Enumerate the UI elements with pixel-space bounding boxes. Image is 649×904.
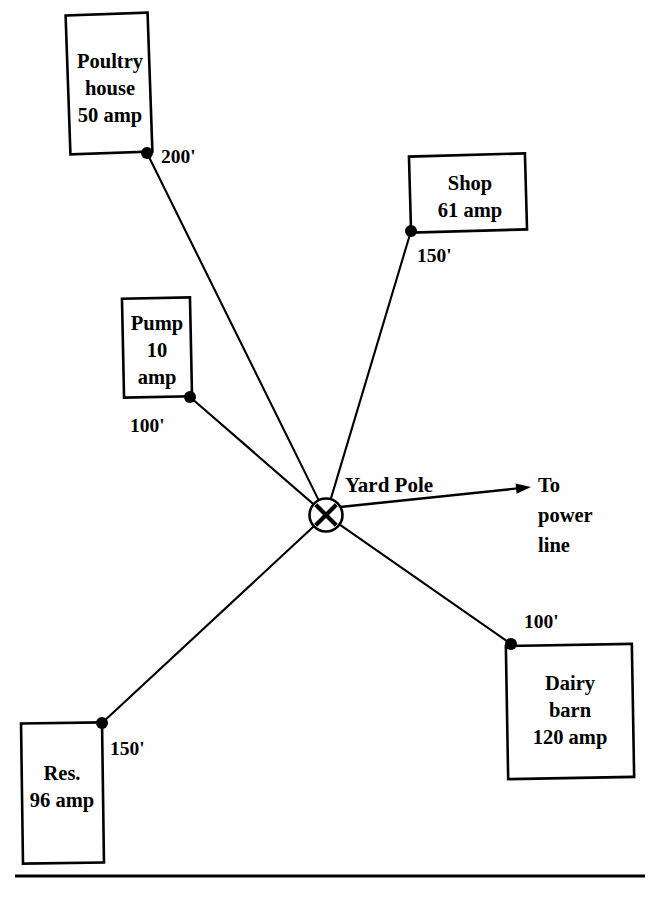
farmstead-diagram: Poultryhouse50 amp200'Shop61 amp150'Pump…: [0, 0, 649, 904]
building-label-shop: 61 amp: [438, 199, 502, 222]
tap-point-poultry-house: [141, 147, 153, 159]
building-label-pump: 10: [147, 339, 168, 361]
yard-pole[interactable]: Yard Pole: [310, 473, 434, 532]
building-label-res: 96 amp: [30, 789, 94, 812]
tap-point-res: [96, 717, 108, 729]
building-label-shop: Shop: [448, 172, 492, 195]
feeder-line-res: [102, 526, 315, 723]
building-pump[interactable]: Pump10amp100': [122, 297, 196, 436]
building-label-poultry-house: Poultry: [77, 50, 144, 73]
distance-label-pump: 100': [130, 415, 165, 436]
building-label-pump: Pump: [131, 312, 183, 335]
building-shop[interactable]: Shop61 amp150': [405, 153, 527, 266]
service-label-line2: power: [538, 504, 593, 527]
tap-point-pump: [184, 391, 196, 403]
yard-pole-label: Yard Pole: [345, 473, 433, 497]
service-entrance-label: To power line: [538, 474, 593, 556]
tap-point-dairy-barn: [505, 638, 517, 650]
service-label-line3: line: [538, 534, 570, 556]
building-label-poultry-house: 50 amp: [78, 104, 142, 127]
building-label-dairy-barn: Dairy: [545, 672, 596, 695]
building-res[interactable]: Res.96 amp150': [21, 717, 145, 864]
distance-label-dairy-barn: 100': [524, 611, 559, 632]
building-label-res: Res.: [43, 762, 80, 784]
feeder-line-group: [102, 153, 511, 723]
power-line-arrow-head: [516, 483, 531, 493]
feeder-line-pump: [190, 397, 314, 505]
service-label-line1: To: [538, 474, 560, 496]
feeder-line-dairy-barn: [339, 524, 511, 644]
wiring-diagram-canvas: Poultryhouse50 amp200'Shop61 amp150'Pump…: [0, 0, 649, 904]
distance-label-shop: 150': [417, 245, 452, 266]
distance-label-res: 150': [110, 738, 145, 759]
tap-point-shop: [405, 225, 417, 237]
building-dairy-barn[interactable]: Dairybarn120 amp100': [505, 611, 634, 779]
building-label-dairy-barn: 120 amp: [533, 726, 608, 749]
building-group: Poultryhouse50 amp200'Shop61 amp150'Pump…: [21, 13, 634, 864]
building-label-pump: amp: [138, 366, 177, 389]
building-poultry-house[interactable]: Poultryhouse50 amp200': [66, 13, 196, 167]
building-label-dairy-barn: barn: [549, 699, 592, 721]
feeder-line-shop: [330, 231, 411, 500]
distance-label-poultry-house: 200': [161, 146, 196, 167]
building-label-poultry-house: house: [85, 77, 135, 99]
